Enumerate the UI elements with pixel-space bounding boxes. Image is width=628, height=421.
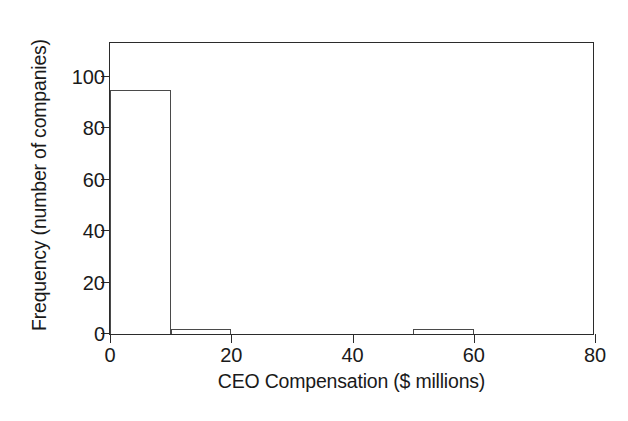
x-axis-tick bbox=[474, 334, 475, 343]
x-axis-tick bbox=[231, 334, 232, 343]
y-axis-tick-label: 80 bbox=[83, 118, 105, 138]
x-axis-tick bbox=[595, 334, 596, 343]
x-axis-tick-label: 0 bbox=[104, 345, 115, 365]
histogram-bar bbox=[171, 329, 232, 334]
histogram-bar bbox=[413, 329, 474, 334]
x-axis-tick-label: 40 bbox=[341, 345, 363, 365]
y-axis-tick-label: 0 bbox=[94, 324, 105, 344]
x-axis-title: CEO Compensation ($ millions) bbox=[109, 370, 594, 393]
x-axis-tick-label: 80 bbox=[584, 345, 606, 365]
x-axis-tick bbox=[353, 334, 354, 343]
histogram-figure: Frequency (number of companies) 02040608… bbox=[0, 0, 628, 421]
x-axis-tick-label: 20 bbox=[220, 345, 242, 365]
y-axis-tick-label: 20 bbox=[83, 273, 105, 293]
x-axis-tick bbox=[110, 334, 111, 343]
histogram-bar bbox=[110, 90, 171, 334]
y-axis-tick-label: 40 bbox=[83, 221, 105, 241]
y-axis-tick-label: 60 bbox=[83, 170, 105, 190]
x-axis-tick-label: 60 bbox=[463, 345, 485, 365]
y-axis-title: Frequency (number of companies) bbox=[22, 15, 56, 355]
y-axis-tick-label: 100 bbox=[72, 67, 105, 87]
plot-area: 020406080100 020406080 bbox=[109, 42, 594, 335]
